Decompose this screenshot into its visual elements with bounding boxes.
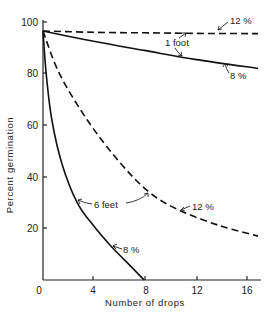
annotation-arrows [78, 22, 229, 249]
y-tick-label: 100 [21, 17, 38, 28]
arrow-1ft-12 [218, 22, 228, 30]
arrow-6ft-12 [181, 206, 190, 210]
series-line-6-feet-8 [43, 31, 144, 280]
series-line-1-foot-8 [43, 31, 258, 68]
x-tick-label: 4 [90, 285, 96, 296]
x-tick-label: 16 [241, 285, 253, 296]
y-axis-title: Percent germination [4, 117, 15, 213]
annotation-labels: 12 % 1 foot 8 % 6 feet 12 % 8 % [94, 15, 252, 255]
annotation-6ft-12pct: 12 % [192, 201, 214, 212]
annotation-1ft-12pct: 12 % [230, 15, 252, 26]
series-line-1-foot-12 [43, 31, 258, 34]
axes [43, 20, 261, 280]
annotation-6ft: 6 feet [94, 199, 118, 210]
annotation-1ft: 1 foot [165, 37, 189, 48]
y-tick-labels: 100 80 60 40 20 [21, 17, 38, 234]
annotation-1ft-8pct: 8 % [230, 70, 247, 81]
y-tick-label: 20 [27, 223, 39, 234]
arrow-6ft-dashed [126, 193, 148, 203]
x-tick-label: 8 [143, 285, 149, 296]
x-tick-label: 0 [36, 285, 42, 296]
series-line-6-feet-12 [43, 31, 258, 236]
x-tick-label: 12 [191, 285, 203, 296]
series-curves [43, 31, 258, 280]
annotation-6ft-8pct: 8 % [123, 244, 140, 255]
y-tick-label: 60 [27, 120, 39, 131]
y-tick-label: 80 [27, 68, 39, 79]
germination-chart: 100 80 60 40 20 0 4 8 12 16 Number of dr… [0, 0, 275, 318]
x-tick-labels: 0 4 8 12 16 [36, 285, 253, 296]
x-axis-title: Number of drops [105, 297, 185, 308]
y-tick-label: 40 [27, 172, 39, 183]
